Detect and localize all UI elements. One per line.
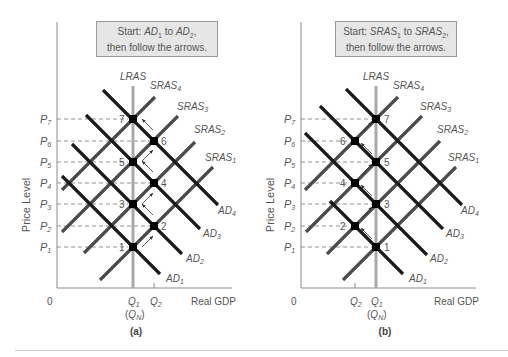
sras-labels: SRAS1 SRAS2 SRAS3 SRAS4 [393,80,479,164]
svg-text:P3: P3 [284,198,295,211]
svg-text:SRAS2: SRAS2 [194,124,225,136]
q2-label: Q2 [350,296,362,308]
svg-text:SRAS1: SRAS1 [448,152,479,164]
panel-caption-a: (a) [130,326,142,337]
svg-text:SRAS3: SRAS3 [177,101,208,113]
svg-text:P5: P5 [284,156,295,169]
svg-text:4: 4 [161,178,167,189]
svg-text:AD3: AD3 [445,228,464,240]
svg-text:4: 4 [340,178,346,189]
price-level-labels: P1 P2 P3 P4 P5 P6 P7 [40,113,52,254]
bottom-divider [15,350,508,351]
svg-text:P1: P1 [40,241,51,254]
svg-text:1: 1 [384,242,390,253]
svg-text:P3: P3 [40,198,51,211]
svg-text:P5: P5 [40,156,51,169]
svg-text:SRAS2: SRAS2 [437,124,468,136]
svg-text:AD4: AD4 [217,205,236,217]
start-note-line1: Start: AD1 to AD2, [97,26,217,42]
x-axis-label: Real GDP [191,296,236,307]
ad2-line [72,144,182,254]
origin-label: 0 [47,296,53,307]
svg-text:5: 5 [119,157,125,168]
path-arrows [361,122,372,239]
svg-text:7: 7 [119,114,125,125]
start-note-line2: then follow the arrows. [336,42,456,54]
svg-text:AD4: AD4 [460,205,479,217]
price-level-labels: P1 P2 P3 P4 P5 P6 P7 [284,113,296,254]
svg-text:P7: P7 [284,113,296,126]
svg-text:SRAS3: SRAS3 [420,101,451,113]
svg-text:5: 5 [384,157,390,168]
svg-text:3: 3 [384,199,390,210]
qn-label: (QN) [125,309,145,321]
q1-label: Q1 [128,296,140,308]
svg-text:AD2: AD2 [429,253,448,265]
y-axis-label: Price Level [20,178,32,232]
svg-text:P4: P4 [40,177,51,190]
svg-text:6: 6 [161,136,167,147]
svg-text:P6: P6 [40,135,51,148]
start-note-a: Start: AD1 to AD2, then follow the arrow… [96,21,218,57]
price-dashes [57,119,154,247]
panel-caption-b: (b) [379,326,392,337]
svg-text:2: 2 [161,221,167,232]
lras-label: LRAS [363,71,389,82]
svg-text:SRAS4: SRAS4 [150,80,181,92]
svg-text:P4: P4 [284,177,295,190]
x-axis-label: Real GDP [434,296,479,307]
start-note-line2: then follow the arrows. [97,42,217,54]
lras-label: LRAS [120,71,146,82]
q2-label: Q2 [150,296,162,308]
svg-text:AD3: AD3 [202,228,221,240]
svg-text:P2: P2 [284,220,295,233]
panel-a: 1 2 3 4 5 6 7 P1 P2 P3 P4 P5 P6 P7 Price… [20,22,236,337]
ad-labels: AD1 AD2 AD3 AD4 [165,205,236,285]
svg-text:1: 1 [119,242,125,253]
svg-text:SRAS1: SRAS1 [205,152,236,164]
svg-text:7: 7 [384,114,390,125]
svg-text:P7: P7 [40,113,52,126]
q1-label: Q1 [371,296,383,308]
sras4-line [62,97,155,190]
svg-text:AD1: AD1 [408,273,427,285]
svg-text:P2: P2 [40,220,51,233]
svg-text:6: 6 [340,136,346,147]
svg-text:AD1: AD1 [165,273,184,285]
origin-label: 0 [291,296,297,307]
svg-text:P1: P1 [284,241,295,254]
start-note-line1: Start: SRAS1 to SRAS2, [336,26,456,42]
svg-text:3: 3 [119,199,125,210]
ad-lines [62,90,218,274]
svg-text:SRAS4: SRAS4 [393,80,424,92]
start-note-b: Start: SRAS1 to SRAS2, then follow the a… [335,21,457,57]
svg-text:P6: P6 [284,135,295,148]
svg-text:2: 2 [340,221,346,232]
y-axis-label: Price Level [264,178,276,232]
svg-text:AD2: AD2 [185,253,204,265]
sras2-line [84,142,195,253]
panel-b: 1 2 3 4 5 6 7 P1 P2 P3 P4 P5 P6 P7 Price… [264,22,479,337]
qn-label: (QN) [367,309,387,321]
